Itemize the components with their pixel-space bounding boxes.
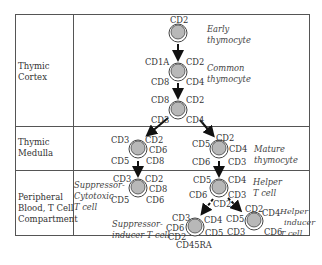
desc-line: Suppressor- [74, 180, 125, 191]
desc-line: T cell [280, 228, 315, 239]
cell-desc-common: Common thymocyte [207, 63, 251, 85]
desc-line: Mature [254, 144, 298, 155]
marker-label: CD5 [226, 215, 244, 224]
marker-label: CD4 [186, 78, 204, 87]
desc-line: thymocyte [207, 74, 251, 85]
marker-label: CD3 [228, 158, 246, 167]
desc-line: thymocyte [254, 155, 298, 166]
marker-label: CD6 [192, 158, 210, 167]
marker-label: CD6 [189, 191, 207, 200]
marker-label: CD4 [229, 145, 247, 154]
desc-line: Helper [280, 206, 315, 217]
desc-line: Common [207, 63, 251, 74]
marker-label: CD45RA [176, 241, 212, 250]
desc-line: thymocyte [207, 35, 251, 46]
cell-desc-helper-inducer: Helper inducer T cell [280, 206, 315, 239]
marker-label: CD3 [227, 228, 245, 237]
marker-label: CD4 [186, 116, 204, 125]
marker-label: CD2 [186, 58, 204, 67]
marker-label: CD2 [216, 134, 234, 143]
marker-label: CD8 [149, 185, 167, 194]
marker-label: CD3 [172, 214, 190, 223]
marker-label: CD2 [245, 205, 263, 214]
desc-line: T cell [74, 202, 125, 213]
cell-desc-early: Early thymocyte [207, 24, 251, 46]
marker-label: CD3 [111, 136, 129, 145]
cell-desc-suppressor-cytotoxic: Suppressor- Cytotoxic T cell [74, 180, 125, 213]
desc-line: inducer [280, 217, 315, 228]
desc-line: Cytotoxic [74, 191, 125, 202]
marker-label: CD8 [151, 78, 169, 87]
desc-line: T cell [253, 188, 282, 199]
marker-label: CD1A [145, 58, 169, 67]
marker-label: CD8 [146, 157, 164, 166]
marker-label: CD2 [145, 175, 163, 184]
marker-label: CD6 [149, 146, 167, 155]
marker-label: CD4 [262, 209, 280, 218]
marker-label: CD4 [204, 216, 222, 225]
marker-label: CD2 [170, 16, 188, 25]
cell-desc-mature: Mature thymocyte [254, 144, 298, 166]
cell-desc-suppressor-inducer: Suppressor- inducer T cell [112, 219, 170, 241]
marker-label: CD5 [192, 140, 210, 149]
marker-label: CD6 [146, 196, 164, 205]
marker-label: CD2 [186, 96, 204, 105]
marker-label: CD8 [151, 96, 169, 105]
marker-label: CD5 [111, 157, 129, 166]
marker-label: CD3 [151, 116, 169, 125]
marker-label: CD5 [205, 229, 223, 238]
desc-line: Suppressor- [112, 219, 170, 230]
marker-label: CD2 [145, 136, 163, 145]
marker-label: CD2 [213, 200, 231, 209]
desc-line: inducer T cell [112, 230, 170, 241]
desc-line: Helper [253, 177, 282, 188]
cell-desc-helper: Helper T cell [253, 177, 282, 199]
desc-line: Early [207, 24, 251, 35]
marker-label: CD5 [193, 176, 211, 185]
marker-label: CD4 [228, 176, 246, 185]
